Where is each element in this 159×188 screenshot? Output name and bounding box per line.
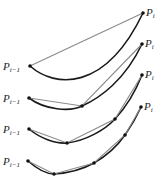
chord-level-1 [29, 44, 142, 106]
label-p-i: Pi [144, 37, 154, 51]
point [26, 159, 30, 163]
chord-level-0 [30, 13, 143, 66]
point [140, 42, 144, 46]
point [123, 133, 127, 137]
point [80, 104, 84, 108]
row-level-2: Pi−1 Pi [2, 68, 154, 145]
label-p-i: Pi [145, 6, 155, 20]
point [113, 117, 117, 121]
point-end [141, 11, 145, 15]
point [65, 141, 69, 145]
point-start [28, 64, 32, 68]
point [27, 127, 31, 131]
label-p-i: Pi [144, 68, 154, 82]
point [92, 161, 96, 165]
point [52, 172, 56, 176]
label-p-i-minus-1: Pi−1 [2, 123, 20, 137]
label-p-i-minus-1: Pi−1 [2, 155, 20, 169]
subdivision-diagram: Pi−1 Pi Pi−1 Pi Pi−1 Pi Pi−1 Pi [0, 0, 159, 188]
label-p-i: Pi [143, 100, 153, 114]
point [139, 105, 143, 109]
point [27, 96, 31, 100]
chord-level-3 [28, 107, 141, 174]
label-p-i-minus-1: Pi−1 [2, 60, 20, 74]
point [140, 73, 144, 77]
chord-level-2 [29, 75, 142, 143]
row-level-0: Pi−1 Pi [2, 6, 155, 80]
curve-level-3 [28, 107, 141, 174]
label-p-i-minus-1: Pi−1 [2, 92, 20, 106]
curve-level-2 [29, 75, 142, 143]
